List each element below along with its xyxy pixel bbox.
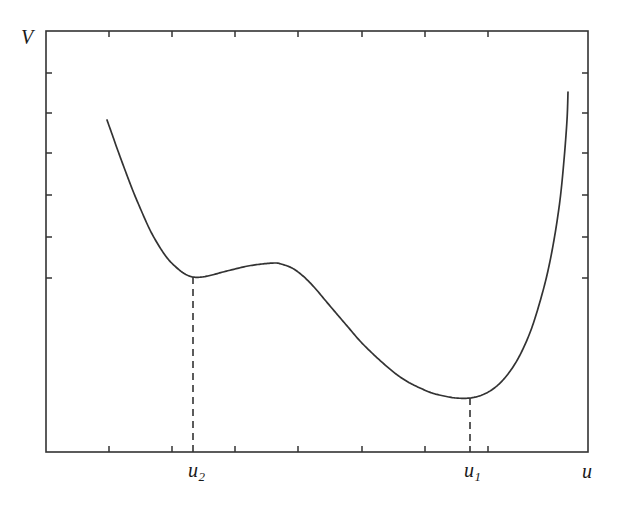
potential-curve — [107, 92, 568, 398]
tick-marks — [46, 31, 588, 452]
drop-lines — [193, 277, 470, 452]
x-axis-label: u — [582, 461, 592, 481]
u1-tick-label: u1 — [464, 460, 481, 480]
bottom-ticks — [109, 446, 488, 452]
potential-energy-figure: V u u1 u2 — [0, 0, 619, 512]
plot-canvas — [0, 0, 619, 512]
u2-base: u — [188, 459, 198, 481]
left-ticks — [46, 73, 52, 278]
top-ticks — [109, 31, 488, 37]
y-axis-label: V — [21, 27, 33, 47]
right-ticks — [582, 73, 588, 278]
plot-frame — [46, 31, 588, 452]
u1-base: u — [464, 459, 474, 481]
frame-rect — [46, 31, 588, 452]
u2-subscript: 2 — [199, 469, 206, 484]
u1-subscript: 1 — [475, 469, 482, 484]
u2-tick-label: u2 — [188, 460, 205, 480]
